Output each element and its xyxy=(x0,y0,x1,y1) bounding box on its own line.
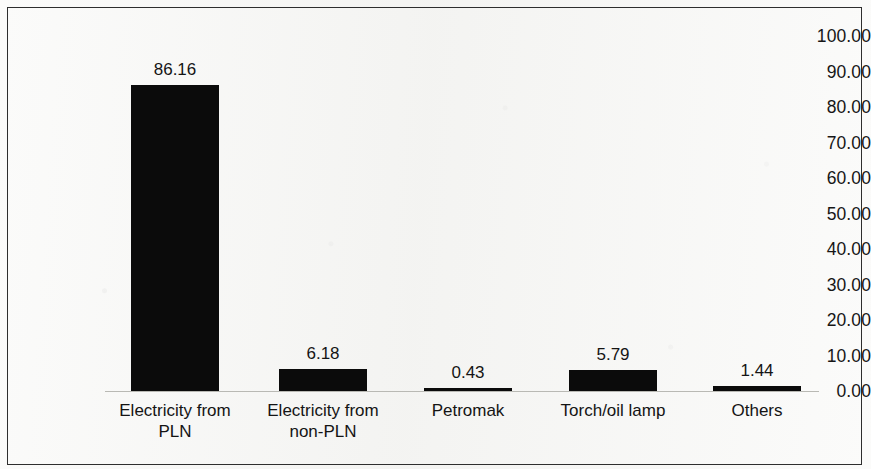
y-axis-tick-90: 90.00 xyxy=(771,61,871,82)
bar-value-label-4: 1.44 xyxy=(697,361,817,381)
y-axis-tick-20: 20.00 xyxy=(771,310,871,331)
bar-1 xyxy=(279,369,367,391)
y-axis-tick-50: 50.00 xyxy=(771,203,871,224)
x-axis-label-4: Others xyxy=(677,400,837,421)
bar-chart-figure: 100.0090.0080.0070.0060.0050.0040.0030.0… xyxy=(0,0,871,469)
bar-value-label-0: 86.16 xyxy=(115,60,235,80)
y-axis-tick-60: 60.00 xyxy=(771,168,871,189)
x-axis-label-line: Torch/oil lamp xyxy=(533,400,693,421)
x-axis-label-line: PLN xyxy=(95,421,255,442)
x-axis-label-0: Electricity fromPLN xyxy=(95,400,255,442)
y-axis-tick-40: 40.00 xyxy=(771,239,871,260)
x-axis-label-line: Others xyxy=(677,400,837,421)
x-axis-baseline xyxy=(105,391,819,392)
bar-3 xyxy=(569,370,657,391)
bar-0 xyxy=(131,85,219,391)
plot-area: 100.0090.0080.0070.0060.0050.0040.0030.0… xyxy=(0,0,871,469)
bar-4 xyxy=(713,386,801,391)
x-axis-label-3: Torch/oil lamp xyxy=(533,400,693,421)
bar-value-label-3: 5.79 xyxy=(553,345,673,365)
x-axis-label-1: Electricity fromnon-PLN xyxy=(243,400,403,442)
y-axis-tick-100: 100.00 xyxy=(771,26,871,47)
x-axis-label-line: Electricity from xyxy=(243,400,403,421)
y-axis-tick-80: 80.00 xyxy=(771,97,871,118)
y-axis-tick-30: 30.00 xyxy=(771,274,871,295)
bar-value-label-2: 0.43 xyxy=(408,363,528,383)
x-axis-label-2: Petromak xyxy=(388,400,548,421)
x-axis-label-line: Petromak xyxy=(388,400,548,421)
y-axis-tick-70: 70.00 xyxy=(771,132,871,153)
bar-2 xyxy=(424,388,512,391)
x-axis-label-line: non-PLN xyxy=(243,421,403,442)
bar-value-label-1: 6.18 xyxy=(263,344,383,364)
x-axis-label-line: Electricity from xyxy=(95,400,255,421)
